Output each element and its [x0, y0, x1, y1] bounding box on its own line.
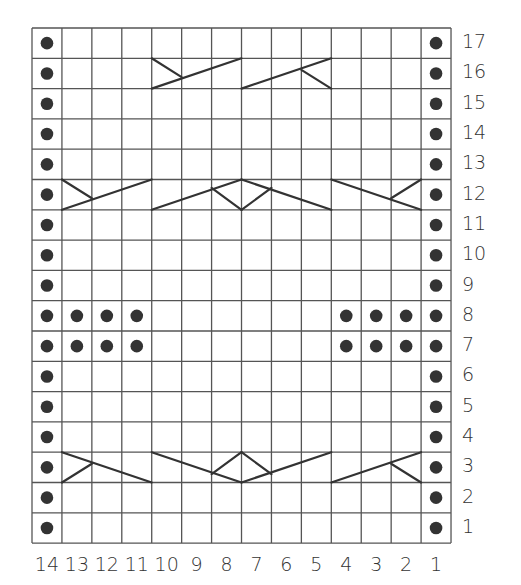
cable-line	[152, 58, 242, 88]
row-label: 3	[462, 454, 474, 476]
cable-line	[152, 58, 182, 77]
row-label: 14	[462, 121, 486, 143]
purl-dot	[430, 249, 443, 262]
purl-dot	[430, 461, 443, 474]
purl-dot	[71, 340, 84, 353]
cable-line	[62, 464, 92, 483]
purl-dot	[370, 310, 383, 323]
purl-dot	[430, 219, 443, 232]
row-label: 12	[462, 182, 486, 204]
column-label: 3	[370, 553, 382, 575]
purl-dot	[41, 219, 54, 232]
purl-dot	[101, 310, 114, 323]
purl-dot	[41, 97, 54, 110]
purl-dot	[41, 522, 54, 535]
chart-grid	[32, 28, 451, 543]
cable-line	[331, 180, 421, 210]
column-label: 2	[400, 553, 412, 575]
row-label: 9	[462, 273, 474, 295]
purl-dot	[41, 158, 54, 171]
purl-dot	[130, 340, 143, 353]
knitting-chart	[0, 0, 521, 585]
row-label: 2	[462, 485, 474, 507]
column-label: 9	[191, 553, 203, 575]
purl-dot	[430, 340, 443, 353]
row-label: 7	[462, 333, 474, 355]
cable-line	[391, 180, 421, 199]
cable-line	[242, 188, 272, 210]
row-label: 15	[462, 91, 486, 113]
cable-line	[152, 452, 242, 482]
purl-dot	[41, 370, 54, 383]
cable-line	[242, 58, 332, 88]
row-label: 13	[462, 151, 486, 173]
cable-line	[242, 180, 332, 210]
purl-dot	[41, 249, 54, 262]
row-label: 10	[462, 242, 486, 264]
purl-dot	[430, 279, 443, 292]
purl-dot	[41, 37, 54, 50]
column-label: 8	[220, 553, 232, 575]
cable-line	[62, 180, 152, 210]
row-label: 1	[462, 515, 474, 537]
purl-dot	[430, 491, 443, 504]
row-label: 8	[462, 303, 474, 325]
row-label: 11	[462, 212, 486, 234]
purl-dot	[430, 370, 443, 383]
purl-dot	[41, 431, 54, 444]
cable-line	[331, 452, 421, 482]
purl-dot	[41, 400, 54, 413]
row-label: 17	[462, 30, 486, 52]
column-label: 7	[250, 553, 262, 575]
column-label: 6	[280, 553, 292, 575]
purl-dot	[101, 340, 114, 353]
purl-dot	[400, 340, 413, 353]
purl-dot	[430, 400, 443, 413]
row-label: 4	[462, 424, 474, 446]
cable-line	[62, 180, 92, 199]
purl-dot	[41, 461, 54, 474]
purl-dot	[430, 37, 443, 50]
purl-dot	[430, 128, 443, 141]
cable-line	[62, 452, 152, 482]
purl-dot	[41, 340, 54, 353]
column-label: 14	[35, 553, 59, 575]
column-label: 5	[310, 553, 322, 575]
purl-dot	[41, 491, 54, 504]
purl-dot	[41, 67, 54, 80]
cable-line	[391, 464, 421, 483]
purl-dot	[430, 97, 443, 110]
row-label: 16	[462, 60, 486, 82]
purl-dot	[41, 128, 54, 141]
cable-line	[152, 180, 242, 210]
purl-dot	[71, 310, 84, 323]
purl-dot	[430, 522, 443, 535]
purl-dot	[41, 310, 54, 323]
column-label: 4	[340, 553, 352, 575]
purl-dot	[400, 310, 413, 323]
cable-line	[212, 452, 242, 474]
row-label: 5	[462, 394, 474, 416]
column-label: 1	[430, 553, 442, 575]
column-label: 11	[125, 553, 149, 575]
purl-dot	[130, 310, 143, 323]
column-label: 12	[95, 553, 119, 575]
column-label: 13	[65, 553, 89, 575]
purl-dot	[430, 67, 443, 80]
purl-dot	[430, 158, 443, 171]
purl-dot	[41, 279, 54, 292]
purl-dot	[41, 188, 54, 201]
column-label: 10	[155, 553, 179, 575]
cable-line	[301, 70, 331, 89]
purl-dot	[370, 340, 383, 353]
purl-dot	[430, 188, 443, 201]
cable-line	[242, 452, 272, 474]
cable-line	[242, 452, 332, 482]
cable-line	[212, 188, 242, 210]
purl-dot	[430, 431, 443, 444]
purl-dot	[430, 310, 443, 323]
row-label: 6	[462, 363, 474, 385]
purl-dot	[340, 310, 353, 323]
purl-dot	[340, 340, 353, 353]
